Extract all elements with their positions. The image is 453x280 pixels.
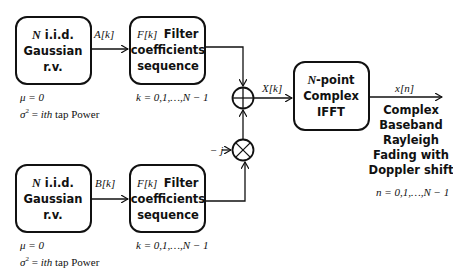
- svg-text:Rayleigh: Rayleigh: [383, 133, 439, 147]
- svg-text:Complex: Complex: [303, 89, 359, 103]
- signal-out-label: x[n]: [394, 82, 414, 94]
- svg-text:sequence: sequence: [137, 208, 199, 222]
- svg-text:sequence: sequence: [137, 59, 199, 73]
- ifft-block: N-point Complex IFFT: [294, 62, 369, 130]
- svg-text:Filter: Filter: [164, 27, 199, 41]
- neg-j-label: − j: [210, 144, 223, 156]
- signal-b-label: B[k]: [95, 177, 115, 189]
- block-diagram: N i.i.d. Gaussian r.v. μ = 0 σ2 = ith ta…: [0, 0, 453, 280]
- svg-text:Filter: Filter: [164, 176, 199, 190]
- filter-block-bottom: F[k] Filter coefficients sequence: [130, 165, 205, 232]
- svg-text:Gaussian: Gaussian: [24, 192, 83, 206]
- svg-text:coefficients: coefficients: [131, 192, 206, 206]
- sigma-label-bottom: σ2 = ith tap Power: [20, 255, 100, 268]
- svg-text:r.v.: r.v.: [43, 208, 62, 222]
- svg-text:IFFT: IFFT: [317, 105, 345, 119]
- svg-text:Doppler shift: Doppler shift: [369, 163, 453, 177]
- n-var: N: [31, 28, 42, 42]
- mu-label-bottom: μ = 0: [19, 239, 44, 251]
- filter-block-top: F[k] Filter coefficients sequence: [130, 17, 205, 84]
- svg-text:N i.i.d.: N i.i.d.: [31, 176, 74, 190]
- line-filter-to-adder: [205, 47, 243, 86]
- svg-text:N-point: N-point: [306, 73, 355, 87]
- sigma-label-top: σ2 = ith tap Power: [20, 107, 100, 120]
- svg-text:coefficients: coefficients: [131, 43, 206, 57]
- gaussian-block-top: N i.i.d. Gaussian r.v.: [16, 17, 91, 84]
- gaussian-label: Gaussian: [24, 44, 83, 58]
- svg-text:Baseband: Baseband: [379, 118, 443, 132]
- signal-x-label: X[k]: [261, 82, 282, 94]
- n-range: n = 0,1,…,N − 1: [376, 186, 449, 198]
- adder-icon: [233, 88, 254, 109]
- svg-text:Complex: Complex: [383, 103, 439, 117]
- svg-text:F[k]: F[k]: [136, 177, 157, 189]
- svg-text:N i.i.d.: N i.i.d.: [31, 28, 74, 42]
- signal-a-label: A[k]: [93, 28, 114, 40]
- multiplier-icon: [233, 140, 254, 161]
- mu-label-top: μ = 0: [19, 91, 44, 103]
- svg-text:Fading with: Fading with: [373, 148, 449, 162]
- rv-label: r.v.: [43, 60, 62, 74]
- k-range-top: k = 0,1,…,N − 1: [136, 91, 209, 103]
- line-filter-to-multiplier: [205, 162, 245, 201]
- k-range-bottom: k = 0,1,…,N − 1: [136, 239, 209, 251]
- gaussian-block-bottom: N i.i.d. Gaussian r.v.: [16, 165, 91, 232]
- f-prefix: F[k]: [136, 28, 157, 40]
- output-description: Complex Baseband Rayleigh Fading with Do…: [369, 103, 453, 198]
